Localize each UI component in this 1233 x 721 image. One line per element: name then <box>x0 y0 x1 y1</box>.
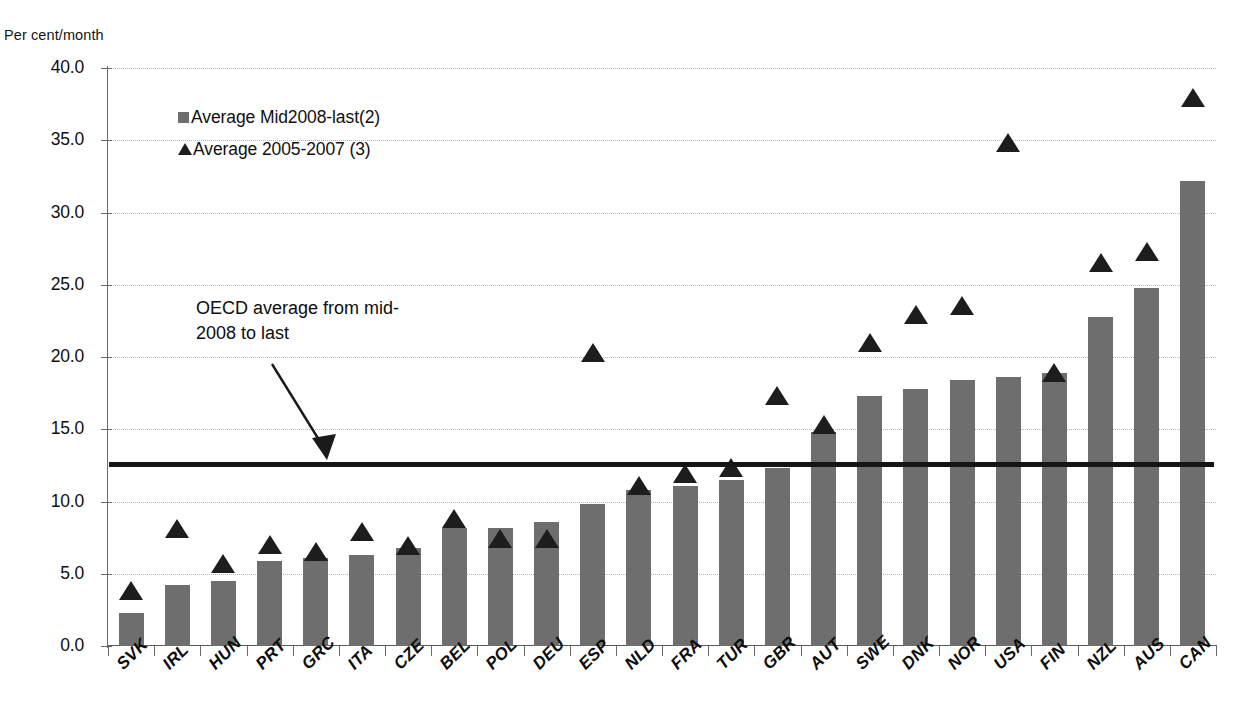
x-tick-mark <box>985 646 986 656</box>
triangle-marker-irl <box>165 519 189 538</box>
annotation-line-2: 2008 to last <box>196 321 426 346</box>
bar-cze <box>396 548 421 646</box>
x-tick-mark <box>939 646 940 656</box>
x-tick-mark <box>801 646 802 656</box>
triangle-marker-deu <box>535 529 559 548</box>
chart-legend: Average Mid2008-last(2) Average 2005-200… <box>178 101 380 165</box>
square-marker-icon <box>178 112 189 123</box>
triangle-marker-usa <box>996 133 1020 152</box>
bar-ita <box>349 555 374 646</box>
x-tick-mark <box>247 646 248 656</box>
triangle-marker-gbr <box>765 386 789 405</box>
chart-container: Per cent/month 0.05.010.015.020.025.030.… <box>0 0 1233 721</box>
y-tick-label: 15.0 <box>51 418 84 439</box>
x-tick-mark <box>1216 646 1217 656</box>
x-tick-mark <box>477 646 478 656</box>
triangle-marker-prt <box>258 535 282 554</box>
triangle-marker-aus <box>1135 242 1159 261</box>
legend-item-triangles: Average 2005-2007 (3) <box>178 133 380 165</box>
bar-gbr <box>765 468 790 646</box>
legend-item-bars: Average Mid2008-last(2) <box>178 101 380 133</box>
triangle-marker-fin <box>1042 363 1066 382</box>
gridline <box>108 285 1216 286</box>
bar-nor <box>950 380 975 646</box>
triangle-marker-nor <box>950 296 974 315</box>
triangle-marker-svk <box>119 581 143 600</box>
legend-label-triangles: Average 2005-2007 (3) <box>193 139 371 160</box>
x-tick-mark <box>154 646 155 656</box>
y-tick-label: 25.0 <box>51 274 84 295</box>
annotation-arrow-icon <box>268 360 348 465</box>
triangle-marker-nld <box>627 476 651 495</box>
y-axis-line <box>107 66 108 648</box>
bar-dnk <box>903 389 928 646</box>
bar-swe <box>857 396 882 646</box>
y-tick-label: 40.0 <box>51 57 84 78</box>
x-tick-mark <box>339 646 340 656</box>
triangle-marker-cze <box>396 536 420 555</box>
gridline <box>108 213 1216 214</box>
oecd-average-annotation: OECD average from mid- 2008 to last <box>196 296 426 346</box>
y-axis-unit-label: Per cent/month <box>4 27 104 43</box>
triangle-marker-hun <box>211 554 235 573</box>
bar-fra <box>673 486 698 646</box>
x-tick-mark <box>662 646 663 656</box>
bar-can <box>1180 181 1205 646</box>
bar-usa <box>996 377 1021 646</box>
annotation-line-1: OECD average from mid- <box>196 296 426 321</box>
triangle-marker-ita <box>350 522 374 541</box>
x-tick-mark <box>570 646 571 656</box>
x-tick-mark <box>385 646 386 656</box>
x-tick-mark <box>616 646 617 656</box>
y-tick-label: 30.0 <box>51 202 84 223</box>
triangle-marker-aut <box>812 415 836 434</box>
triangle-marker-can <box>1181 88 1205 107</box>
x-tick-mark <box>754 646 755 656</box>
y-tick-label: 20.0 <box>51 346 84 367</box>
triangle-marker-bel <box>442 509 466 528</box>
x-tick-mark <box>1031 646 1032 656</box>
x-tick-mark <box>524 646 525 656</box>
x-tick-mark <box>293 646 294 656</box>
y-tick-label: 35.0 <box>51 129 84 150</box>
triangle-marker-pol <box>488 529 512 548</box>
x-tick-mark <box>431 646 432 656</box>
x-tick-mark <box>847 646 848 656</box>
y-tick-label: 10.0 <box>51 491 84 512</box>
triangle-marker-dnk <box>904 305 928 324</box>
gridline <box>108 68 1216 69</box>
y-tick-label: 0.0 <box>60 635 84 656</box>
x-tick-mark <box>708 646 709 656</box>
y-tick-label: 5.0 <box>60 563 84 584</box>
gridline <box>108 357 1216 358</box>
bar-nld <box>626 490 651 646</box>
triangle-marker-nzl <box>1089 253 1113 272</box>
bar-irl <box>165 585 190 646</box>
x-tick-mark <box>893 646 894 656</box>
x-tick-mark <box>1170 646 1171 656</box>
x-tick-mark <box>1078 646 1079 656</box>
bar-esp <box>580 504 605 646</box>
bar-nzl <box>1088 317 1113 646</box>
triangle-marker-grc <box>304 542 328 561</box>
oecd-average-reference-line <box>109 462 1214 467</box>
bar-bel <box>442 528 467 646</box>
x-tick-mark <box>200 646 201 656</box>
bar-prt <box>257 561 282 646</box>
bar-fin <box>1042 373 1067 646</box>
legend-label-bars: Average Mid2008-last(2) <box>191 107 380 128</box>
bar-tur <box>719 480 744 646</box>
triangle-marker-esp <box>581 343 605 362</box>
triangle-marker-icon <box>178 143 192 155</box>
x-tick-mark <box>108 646 109 656</box>
triangle-marker-swe <box>858 333 882 352</box>
x-tick-mark <box>1124 646 1125 656</box>
